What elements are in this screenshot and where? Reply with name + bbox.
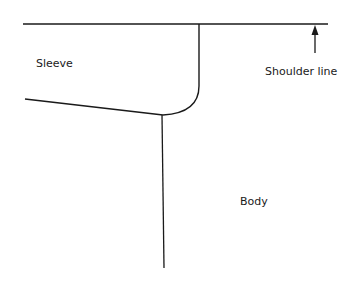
garment-diagram (0, 0, 358, 291)
body-side-seam (162, 115, 164, 268)
sleeve-label: Sleeve (36, 58, 73, 69)
body-label: Body (240, 196, 268, 207)
arrow-up-icon (312, 25, 319, 53)
sleeve-underarm-line (25, 99, 163, 115)
shoulder-line-label: Shoulder line (265, 66, 337, 77)
armhole-curve (163, 24, 199, 115)
